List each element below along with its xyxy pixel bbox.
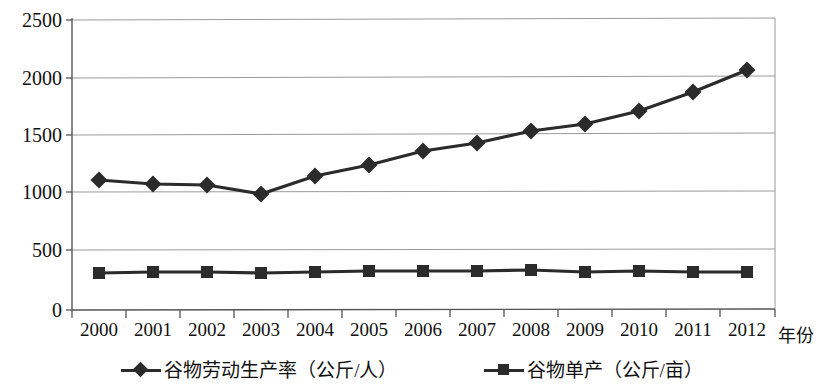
legend-label-labour-productivity: 谷物劳动生产率（公斤/人） [164, 355, 397, 384]
x-tick-label-2003: 2003 [231, 320, 291, 340]
x-tick-label-2011: 2011 [663, 320, 723, 340]
legend-label-grain-yield: 谷物单产（公斤/亩） [527, 355, 703, 384]
series-line-labour-productivity [99, 70, 747, 194]
x-tick-label-2009: 2009 [555, 320, 615, 340]
x-axis-title: 年份 [778, 321, 814, 347]
square-marker-icon [484, 362, 524, 378]
x-tick-label-2001: 2001 [123, 320, 183, 340]
x-axis-line [72, 309, 775, 310]
y-axis-ticks [66, 20, 72, 310]
x-tick-label-2004: 2004 [285, 320, 345, 340]
x-tick-label-2007: 2007 [447, 320, 507, 340]
legend-item-labour-productivity: 谷物劳动生产率（公斤/人） [121, 355, 397, 384]
x-tick-label-2006: 2006 [393, 320, 453, 340]
x-tick-label-2012: 2012 [717, 320, 777, 340]
x-tick-label-2008: 2008 [501, 320, 561, 340]
x-tick-label-2000: 2000 [69, 320, 129, 340]
chart-legend: 谷物劳动生产率（公斤/人） 谷物单产（公斤/亩） [0, 352, 824, 387]
x-tick-label-2002: 2002 [177, 320, 237, 340]
chart-figure: 2500 2000 1500 1000 500 0 [0, 0, 824, 387]
gridlines [72, 18, 775, 250]
series-markers-labour-productivity [91, 62, 756, 203]
diamond-marker-icon [121, 362, 161, 378]
x-tick-label-2010: 2010 [609, 320, 669, 340]
x-tick-label-2005: 2005 [339, 320, 399, 340]
legend-item-grain-yield: 谷物单产（公斤/亩） [484, 355, 703, 384]
